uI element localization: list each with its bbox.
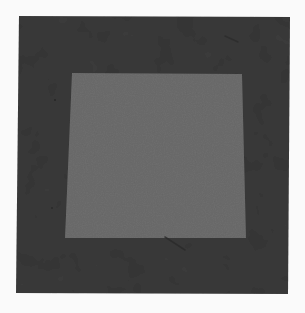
paint-speck (51, 207, 53, 209)
inner-gray-square (65, 73, 246, 238)
artwork-photo (0, 0, 305, 313)
artwork-svg (0, 0, 305, 313)
paint-speck (54, 99, 56, 101)
